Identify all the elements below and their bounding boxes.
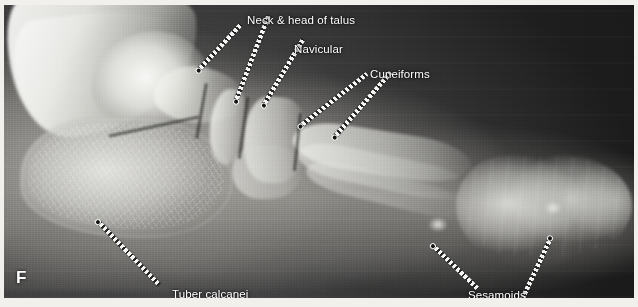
label-tuber-calcanei: Tuber calcanei: [172, 288, 248, 298]
radiograph-figure: Neck & head of talus Navicular Cuneiform…: [0, 0, 638, 307]
label-navicular: Navicular: [294, 43, 343, 56]
label-neck-head-talus: Neck & head of talus: [247, 14, 355, 27]
label-cuneiforms: Cuneiforms: [370, 68, 430, 81]
xray-plate: Neck & head of talus Navicular Cuneiform…: [4, 5, 634, 298]
label-sesamoids: Sesamoids: [468, 289, 526, 298]
figure-letter: F: [16, 268, 27, 288]
